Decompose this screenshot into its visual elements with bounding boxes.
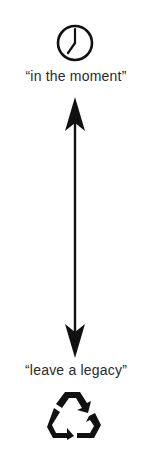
recycle-icon xyxy=(47,388,101,440)
clock-icon xyxy=(55,23,95,63)
in-the-moment-label: “in the moment” xyxy=(0,68,152,84)
leave-a-legacy-label: “leave a legacy” xyxy=(0,362,152,378)
double-headed-arrow-icon xyxy=(60,95,90,360)
